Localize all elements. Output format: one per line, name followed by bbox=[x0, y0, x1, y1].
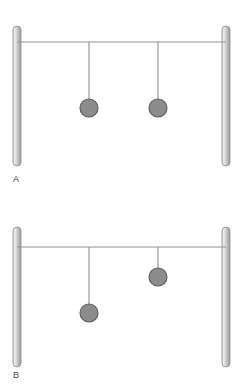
left-pendulum-b bbox=[80, 247, 98, 322]
left-pendulum-a bbox=[80, 42, 98, 117]
left-post-b bbox=[13, 227, 21, 367]
panel-a-label: A bbox=[13, 174, 19, 185]
right-pendulum-a bbox=[149, 42, 167, 117]
panel-a-diagram bbox=[0, 0, 247, 195]
right-post-b bbox=[222, 227, 230, 367]
right-pendulum-b bbox=[149, 247, 167, 286]
panel-b-label: B bbox=[13, 370, 19, 381]
left-post-a bbox=[13, 26, 21, 166]
figure-root: A bbox=[0, 0, 247, 391]
right-post-a bbox=[222, 26, 230, 166]
panel-b-diagram bbox=[0, 196, 247, 391]
panel-a: A bbox=[0, 0, 247, 195]
panel-b: B bbox=[0, 196, 247, 391]
